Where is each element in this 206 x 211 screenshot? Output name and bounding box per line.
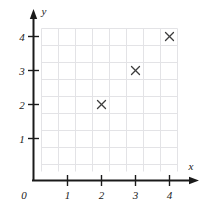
x-axis — [32, 177, 199, 184]
data-points — [98, 33, 174, 109]
x-tick-label: 4 — [167, 189, 173, 201]
y-axis — [30, 9, 37, 181]
y-tick-label: 1 — [19, 133, 25, 145]
coordinate-plane-svg: 4 3 2 1 0 1 2 3 4 y x — [0, 0, 206, 211]
data-point-marker — [98, 101, 106, 109]
data-point-marker — [132, 67, 140, 75]
x-tick-label: 3 — [132, 189, 139, 201]
y-axis-title: y — [41, 5, 47, 17]
scatter-plot-figure: 4 3 2 1 0 1 2 3 4 y x — [0, 0, 206, 211]
y-tick-label: 2 — [19, 99, 25, 111]
data-point-marker — [166, 33, 174, 41]
y-axis-arrowhead — [30, 9, 37, 19]
grid-lines — [42, 29, 178, 172]
x-axis-title: x — [188, 160, 194, 172]
origin-tick-label: 0 — [21, 189, 27, 201]
y-tick-label: 3 — [18, 65, 25, 77]
x-axis-arrowhead — [189, 177, 199, 184]
x-tick-label: 2 — [99, 189, 105, 201]
y-tick-label: 4 — [19, 31, 25, 43]
x-tick-label: 1 — [65, 189, 71, 201]
